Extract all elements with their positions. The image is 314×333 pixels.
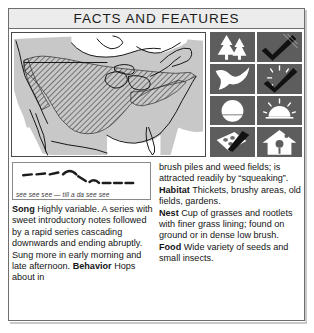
fact-nest: Nest Cup of grasses and rootlets with fi… <box>159 208 301 242</box>
frame-shadow-bottom <box>10 322 307 324</box>
nest-eggs-icon[interactable] <box>210 127 255 157</box>
conifer-trees-icon[interactable] <box>210 32 255 62</box>
fact-food: Food Wide variety of seeds and small ins… <box>159 242 301 265</box>
fact-song: Song Highly variable. A series with swee… <box>12 204 154 284</box>
flying-bird-icon[interactable] <box>210 64 255 94</box>
fact-body-nest: Cup of grasses and rootlets with finer g… <box>159 208 292 241</box>
full-circle-glyph <box>210 96 255 126</box>
left-facts-text: Song Highly variable. A series with swee… <box>12 204 154 284</box>
checkmark-rays-icon[interactable] <box>257 64 302 94</box>
checkmark-glyph <box>257 32 302 62</box>
panel-header: FACTS AND FEATURES <box>9 9 304 29</box>
frame-shadow-right <box>305 10 307 322</box>
half-sun-rays-icon[interactable] <box>257 96 302 126</box>
right-facts-text: brush piles and weed fields; is attracte… <box>159 162 301 265</box>
range-map-graphic <box>12 33 205 156</box>
full-circle-icon[interactable] <box>210 96 255 126</box>
birdhouse-glyph <box>257 127 302 157</box>
facts-text-region: see see see — till a da see see Song Hig… <box>9 160 304 320</box>
checkmark-icon[interactable] <box>257 32 302 62</box>
conifer-trees-glyph <box>210 32 255 62</box>
map-and-icons-band <box>9 29 304 160</box>
birdhouse-icon[interactable] <box>257 127 302 157</box>
facts-column-left: see see see — till a da see see Song Hig… <box>12 162 154 318</box>
half-sun-rays-glyph <box>257 96 302 126</box>
fact-label-behavior: Behavior <box>73 261 112 271</box>
facts-and-features-panel: FACTS AND FEATURES <box>0 0 314 333</box>
facts-column-right: brush piles and weed fields; is attracte… <box>159 162 301 318</box>
fact-label-food: Food <box>159 242 181 252</box>
song-sonogram: see see see — till a da see see <box>12 162 151 200</box>
fact-body-behavior-cont: brush piles and weed fields; is attracte… <box>159 162 288 183</box>
sonogram-caption: see see see — till a da see see <box>16 191 109 198</box>
feature-icon-grid <box>210 32 302 157</box>
fact-label-habitat: Habitat <box>159 185 190 195</box>
checkmark-rays-glyph <box>257 64 302 94</box>
range-map <box>11 32 206 157</box>
fact-continuation: brush piles and weed fields; is attracte… <box>159 162 301 185</box>
fact-label-song: Song <box>12 204 35 214</box>
fact-habitat: Habitat Thickets, brushy areas, old fiel… <box>159 185 301 208</box>
flying-bird-glyph <box>210 64 255 94</box>
page-title: FACTS AND FEATURES <box>74 12 240 26</box>
fact-label-nest: Nest <box>159 208 179 218</box>
nest-eggs-glyph <box>210 127 255 157</box>
